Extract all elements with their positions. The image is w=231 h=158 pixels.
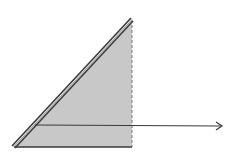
shaded-triangle bbox=[13, 19, 132, 147]
triangle-ray-diagram bbox=[0, 0, 231, 158]
diagram-canvas bbox=[0, 0, 231, 158]
